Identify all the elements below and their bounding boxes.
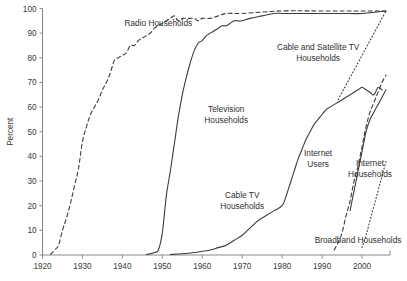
- series-label-line: Cable and Satellite TV: [277, 42, 360, 52]
- series-line-cable-and-satellite-tv-households: [338, 11, 386, 100]
- series-label-line: Broadband Households: [315, 235, 402, 245]
- x-tick-label: 2000: [353, 262, 372, 271]
- series-label-line: Internet: [304, 148, 333, 158]
- y-tick-label: 0: [32, 251, 37, 260]
- y-tick-label: 10: [27, 226, 37, 235]
- y-tick-label: 50: [27, 128, 37, 137]
- x-tick-label: 1990: [313, 262, 332, 271]
- series-label-internet-users: InternetUsers: [304, 148, 333, 169]
- y-axis-title: Percent: [6, 117, 15, 146]
- series-label-cable-tv-households: Cable TVHouseholds: [220, 190, 264, 211]
- x-tick-label: 1980: [273, 262, 292, 271]
- series-label-line: Internet: [356, 158, 385, 168]
- x-tick-label: 1960: [193, 262, 212, 271]
- y-tick-label: 20: [27, 202, 37, 211]
- x-tick-label: 1970: [233, 262, 252, 271]
- series-label-television-households: TelevisionHouseholds: [204, 104, 248, 125]
- series-label-line: Households: [204, 115, 248, 125]
- series-labels-group: Radio HouseholdsTelevisionHouseholdsCabl…: [124, 18, 401, 245]
- y-tick-label: 80: [27, 54, 37, 63]
- x-axis-ticks: 192019301940195019601970198019902000: [33, 251, 390, 272]
- x-tick-label: 1940: [113, 262, 132, 271]
- y-axis-ticks: 0102030405060708090100: [23, 5, 43, 261]
- series-label-line: Households: [296, 53, 340, 63]
- series-label-cable-and-satellite-tv-households: Cable and Satellite TVHouseholds: [277, 42, 360, 63]
- series-label-line: Households: [348, 169, 392, 179]
- series-label-radio-households: Radio Households: [124, 18, 192, 28]
- y-tick-label: 90: [27, 29, 37, 38]
- series-label-line: Television: [208, 104, 245, 114]
- y-tick-label: 70: [27, 78, 37, 87]
- y-tick-label: 40: [27, 152, 37, 161]
- series-label-broadband-households: Broadband Households: [315, 235, 402, 245]
- y-axis-title-group: Percent: [6, 117, 15, 146]
- line-chart: 0102030405060708090100 19201930194019501…: [0, 0, 407, 281]
- series-label-line: Users: [307, 159, 329, 169]
- x-tick-label: 1920: [33, 262, 52, 271]
- series-label-line: Cable TV: [225, 190, 260, 200]
- y-tick-label: 30: [27, 177, 37, 186]
- x-tick-label: 1930: [73, 262, 92, 271]
- series-label-line: Households: [220, 201, 264, 211]
- y-tick-label: 100: [23, 5, 37, 14]
- y-tick-label: 60: [27, 103, 37, 112]
- series-label-internet-households: InternetHouseholds: [348, 158, 392, 179]
- x-tick-label: 1950: [153, 262, 172, 271]
- series-line-internet-households: [350, 90, 386, 211]
- chart-container: 0102030405060708090100 19201930194019501…: [0, 0, 407, 281]
- series-label-line: Radio Households: [124, 18, 192, 28]
